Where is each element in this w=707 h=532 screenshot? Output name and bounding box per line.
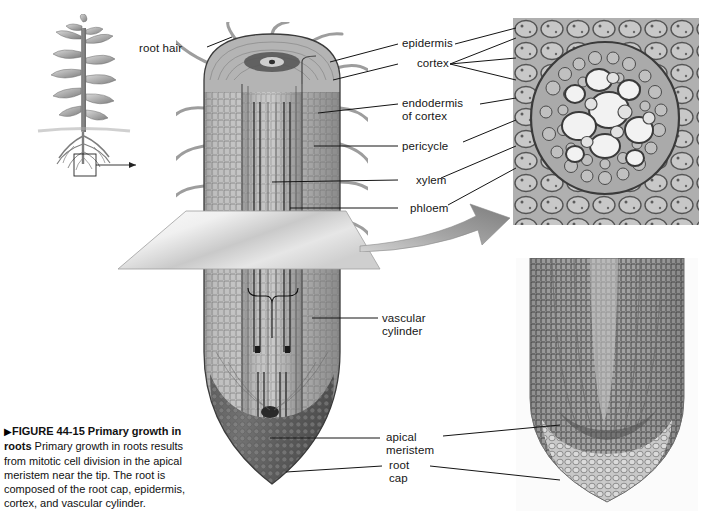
label-apical-meristem: apical meristem [386,431,434,456]
plant-illustration [24,14,144,179]
root-cross-section-micrograph [513,18,699,225]
root-tip-longitudinal-micrograph [516,258,698,511]
label-xylem: xylem [416,174,447,187]
label-phloem: phloem [410,202,448,215]
label-root-hair: root hair [139,42,182,55]
label-root-cap: root cap [389,459,409,484]
label-endodermis-of-cortex: endodermis of cortex [402,97,463,122]
label-epidermis: epidermis [402,37,453,50]
caption-body: Primary growth in roots results from mit… [4,440,185,509]
figure-caption: ▶FIGURE 44-15 Primary growth in roots Pr… [4,424,190,511]
label-cortex: cortex [417,57,449,70]
caption-figure-number: FIGURE 44-15 [12,425,85,437]
caption-bullet-icon: ▶ [4,426,12,437]
label-vascular-cylinder: vascular cylinder [382,312,426,337]
cutting-plane [116,209,382,277]
figure-root-primary-growth: root hair epidermis cortex endodermis of… [0,0,707,532]
label-pericycle: pericycle [402,140,448,153]
plant-to-root-arrow [96,162,136,168]
